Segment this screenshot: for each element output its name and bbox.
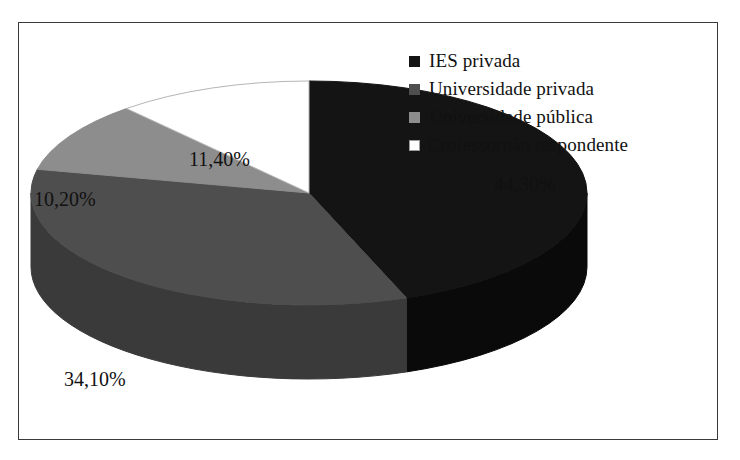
legend-item[interactable]: Universidade privada <box>409 75 689 103</box>
legend-swatch-ies-privada <box>409 56 420 67</box>
legend-label: Universidade privada <box>429 78 594 100</box>
legend-swatch-professor-nao-respondente <box>409 140 420 151</box>
legend-label: □rofessornão respondente <box>429 134 628 156</box>
slice-value-label-universidade-publica: 10,20% <box>34 188 96 211</box>
slice-value-label-universidade-privada: 34,10% <box>64 368 126 391</box>
legend-item[interactable]: Universidade pública <box>409 103 689 131</box>
legend-item[interactable]: IES privada <box>409 47 689 75</box>
legend-swatch-universidade-publica <box>409 112 420 123</box>
legend-label: IES privada <box>429 50 520 72</box>
legend-item[interactable]: □rofessornão respondente <box>409 131 689 159</box>
slice-value-label-professor-nao-respondente: 11,40% <box>189 148 250 171</box>
chart-legend: IES privada Universidade privada Univers… <box>409 47 689 159</box>
chart-frame: 44,30% 34,10% 10,20% 11,40% IES privada … <box>18 22 718 440</box>
legend-label: Universidade pública <box>429 106 593 128</box>
slice-value-label-ies-privada: 44,30% <box>494 173 556 196</box>
legend-swatch-universidade-privada <box>409 84 420 95</box>
